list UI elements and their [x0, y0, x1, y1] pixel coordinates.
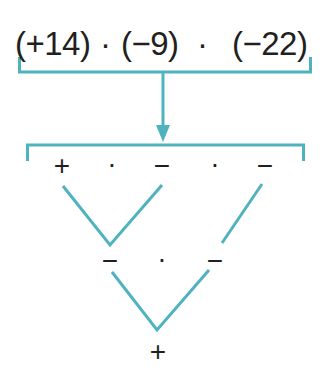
operator-dot: · [107, 150, 116, 178]
operator-dot: · [210, 150, 219, 178]
sign-minus: − [207, 247, 223, 275]
factor-2: (−9) [121, 24, 179, 64]
pair-v-first [63, 185, 162, 245]
operator-1: · [100, 24, 111, 64]
operator-dot: · [157, 245, 166, 273]
arrow-head-icon [156, 125, 170, 142]
carry-line [222, 184, 262, 243]
factor-3: (−22) [232, 24, 307, 64]
result-sign: + [150, 338, 166, 366]
sign-minus: − [102, 247, 118, 275]
sign-minus: − [257, 152, 273, 180]
sign-plus: + [54, 152, 70, 180]
pair-v-second [112, 270, 209, 330]
factor-1: (+14) [15, 24, 90, 64]
sign-minus: − [154, 152, 170, 180]
multiplication-expression: (+14) · (−9) · (−22) [0, 24, 329, 64]
operator-2: · [197, 24, 208, 64]
